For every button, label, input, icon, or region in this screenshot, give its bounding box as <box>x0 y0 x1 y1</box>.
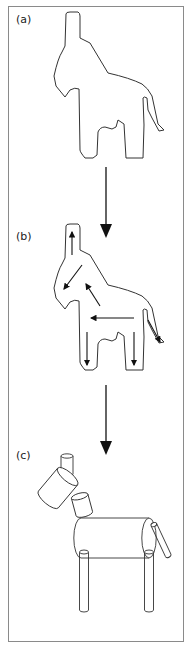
panel-label-a: (a) <box>16 13 31 26</box>
neck-cylinder <box>71 491 94 519</box>
panel-a-silhouette <box>54 12 164 158</box>
arrow-a-to-b-head <box>100 224 112 238</box>
panel-label-c: (c) <box>16 449 31 462</box>
panel-b-axes <box>54 224 164 370</box>
head-cylinder <box>35 465 80 512</box>
neck-diagonal-arrow <box>64 265 82 289</box>
donkey-outline-a <box>54 12 164 158</box>
donkey-outline-b <box>54 224 164 370</box>
flow-arrows <box>100 167 112 455</box>
panel-c-cylinders <box>35 454 171 612</box>
panel-label-b: (b) <box>16 230 32 243</box>
arrow-b-to-c-head <box>100 441 112 455</box>
tail-diagonal-arrow <box>148 320 160 342</box>
body-diagonal-arrow <box>86 284 100 306</box>
hind-leg-cylinder <box>145 550 154 612</box>
front-leg-cylinder <box>80 550 89 612</box>
diagram-canvas <box>0 0 192 648</box>
